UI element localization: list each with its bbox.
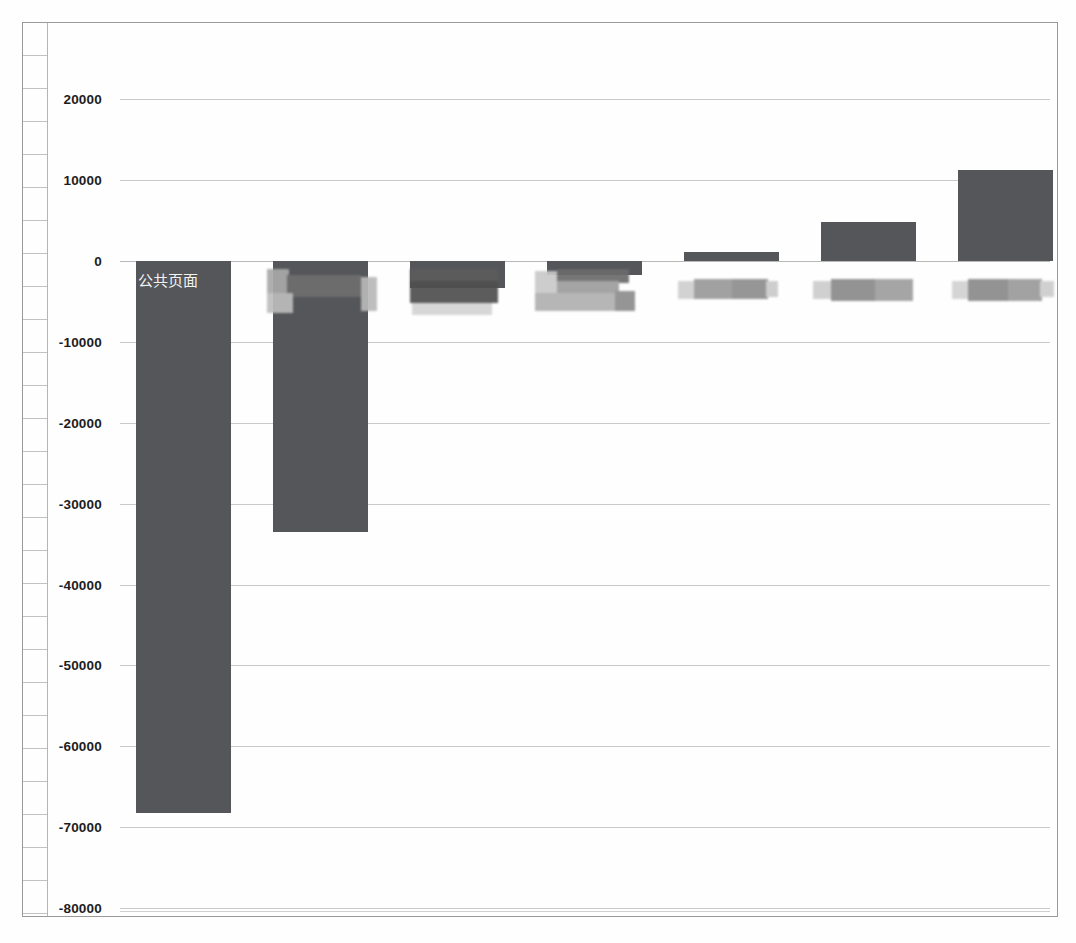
chart-page: 20000100000-10000-20000-30000-40000-5000… xyxy=(0,0,1076,943)
row-header-cell[interactable] xyxy=(23,782,47,815)
gridline-20000 xyxy=(120,99,1050,100)
redaction-block xyxy=(615,291,635,311)
row-header-cell[interactable] xyxy=(23,353,47,386)
y-tick-label: -80000 xyxy=(28,901,102,916)
row-header-cell[interactable] xyxy=(23,188,47,221)
bar[interactable] xyxy=(958,170,1053,261)
y-tick-label: -50000 xyxy=(28,658,102,673)
row-header-cell[interactable] xyxy=(23,287,47,320)
redaction-block xyxy=(287,275,361,297)
row-header-strip[interactable] xyxy=(23,23,48,916)
row-header-cell[interactable] xyxy=(23,23,47,56)
y-tick-label: 10000 xyxy=(28,173,102,188)
y-tick-label: 0 xyxy=(28,254,102,269)
category-label-redacted xyxy=(821,275,916,325)
bar[interactable] xyxy=(821,222,916,261)
redaction-block xyxy=(1008,279,1042,301)
row-header-cell[interactable] xyxy=(23,683,47,716)
row-header-cell[interactable] xyxy=(23,122,47,155)
redaction-block xyxy=(694,279,734,299)
y-tick-label: -60000 xyxy=(28,739,102,754)
redaction-block xyxy=(875,279,913,301)
row-header-cell[interactable] xyxy=(23,452,47,485)
row-header-cell[interactable] xyxy=(23,749,47,782)
y-tick-label: -40000 xyxy=(28,577,102,592)
category-label-redacted xyxy=(273,267,368,317)
gridline--30000 xyxy=(120,504,1050,505)
row-header-cell[interactable] xyxy=(23,848,47,881)
row-header-cell[interactable] xyxy=(23,518,47,551)
y-tick-label: -20000 xyxy=(28,415,102,430)
redaction-block xyxy=(968,279,1012,301)
gridline--20000 xyxy=(120,423,1050,424)
gridline--60000 xyxy=(120,746,1050,747)
redaction-block xyxy=(813,281,833,299)
redaction-block xyxy=(766,281,778,297)
redaction-block xyxy=(831,279,877,301)
bar[interactable] xyxy=(684,252,779,261)
category-label-redacted xyxy=(410,267,505,317)
row-header-cell[interactable] xyxy=(23,617,47,650)
redaction-block xyxy=(412,303,492,315)
redaction-block xyxy=(732,279,768,299)
gridline--50000 xyxy=(120,665,1050,666)
gridline--80000 xyxy=(120,908,1050,909)
gridline-10000 xyxy=(120,180,1050,181)
row-header-cell[interactable] xyxy=(23,386,47,419)
redaction-block xyxy=(361,277,377,311)
y-tick-label: -30000 xyxy=(28,496,102,511)
y-tick-label: -70000 xyxy=(28,820,102,835)
redaction-block xyxy=(267,293,293,313)
gridline--10000 xyxy=(120,342,1050,343)
redaction-block xyxy=(267,269,289,295)
category-label-redacted xyxy=(684,275,779,325)
category-label-redacted xyxy=(547,267,642,317)
y-tick-label: -10000 xyxy=(28,334,102,349)
bar[interactable] xyxy=(136,261,231,813)
plot-bottom-axis xyxy=(120,911,1050,912)
bar-annotation-label: 公共页面 xyxy=(138,269,198,290)
gridline--40000 xyxy=(120,585,1050,586)
y-tick-label: 20000 xyxy=(28,92,102,107)
plot-area: 20000100000-10000-20000-30000-40000-5000… xyxy=(120,40,1050,912)
row-header-cell[interactable] xyxy=(23,56,47,89)
row-header-cell[interactable] xyxy=(23,221,47,254)
redaction-block xyxy=(410,281,498,303)
gridline--70000 xyxy=(120,827,1050,828)
redaction-block xyxy=(1040,281,1054,297)
category-label-redacted xyxy=(958,275,1053,325)
